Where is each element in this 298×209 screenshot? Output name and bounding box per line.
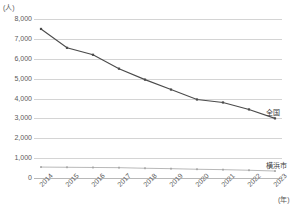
data-point <box>222 169 224 171</box>
series-label-national: 全国 <box>266 107 280 117</box>
y-axis-tick-labels: 8,0007,0006,0005,0004,0003,0002,0001,000… <box>0 19 32 178</box>
x-axis-tick-labels: 2014201520162017201820192020202120222023 <box>34 180 282 209</box>
series-national <box>40 28 276 120</box>
series-line <box>41 29 275 118</box>
y-axis-tick: 6,000 <box>2 55 32 62</box>
y-axis-tick: 7,000 <box>2 35 32 42</box>
data-point <box>274 117 276 119</box>
series-label-yokohama: 横浜市 <box>266 160 287 170</box>
y-axis-tick: 0 <box>2 174 32 181</box>
y-axis-tick: 8,000 <box>2 15 32 22</box>
data-point <box>66 47 68 49</box>
data-point <box>248 169 250 171</box>
data-point <box>40 166 42 168</box>
y-axis-tick: 1,000 <box>2 154 32 161</box>
data-point <box>222 101 224 103</box>
line-chart: (人) 8,0007,0006,0005,0004,0003,0002,0001… <box>0 0 298 209</box>
data-point <box>170 88 172 90</box>
data-point <box>118 68 120 70</box>
plot-area <box>34 19 282 178</box>
series-lines <box>34 19 282 178</box>
y-axis-unit-label: (人) <box>3 2 15 12</box>
data-point <box>248 108 250 110</box>
data-point <box>118 167 120 169</box>
data-point <box>196 168 198 170</box>
data-point <box>274 170 276 172</box>
x-axis-unit-label: (年) <box>278 194 290 204</box>
data-point <box>170 168 172 170</box>
data-point <box>144 79 146 81</box>
y-axis-tick: 5,000 <box>2 75 32 82</box>
y-axis-tick: 2,000 <box>2 134 32 141</box>
series-line <box>41 167 275 171</box>
data-point <box>144 167 146 169</box>
data-point <box>66 166 68 168</box>
data-point <box>40 28 42 30</box>
data-point <box>92 54 94 56</box>
data-point <box>92 167 94 169</box>
y-axis-tick: 3,000 <box>2 114 32 121</box>
data-point <box>196 98 198 100</box>
y-axis-tick: 4,000 <box>2 95 32 102</box>
